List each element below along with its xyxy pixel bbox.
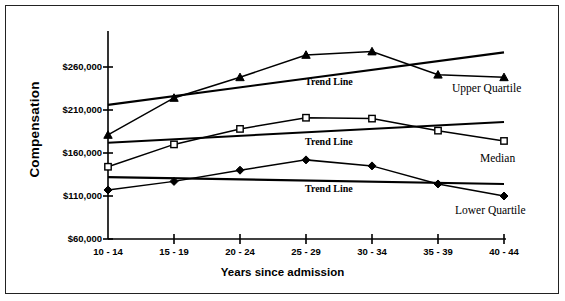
- series-label-median: Median: [480, 152, 515, 164]
- x-axis-tick-label: 20 - 24: [205, 246, 275, 257]
- x-axis-tick-label: 40 - 44: [469, 246, 539, 257]
- data-point-median: [501, 138, 507, 144]
- data-point-median: [369, 115, 375, 121]
- x-axis-tick-label: 35 - 39: [403, 246, 473, 257]
- x-axis-tick-label: 25 - 29: [271, 246, 341, 257]
- y-axis-tick-label: $160,000: [40, 147, 102, 158]
- data-point-median: [105, 164, 111, 170]
- y-axis-tick-label: $260,000: [40, 61, 102, 72]
- data-point-lower-quartile: [104, 186, 112, 194]
- series-label-lower-quartile: Lower Quartile: [455, 204, 526, 216]
- chart-figure: Compensation Years since admission $60,0…: [0, 0, 565, 301]
- series-line-upper-quartile: [108, 52, 504, 135]
- y-axis-tick-label: $110,000: [40, 190, 102, 201]
- series-label-upper-quartile: Upper Quartile: [452, 82, 521, 94]
- x-axis-tick-label: 15 - 19: [139, 246, 209, 257]
- x-axis-tick-label: 30 - 34: [337, 246, 407, 257]
- data-point-median: [237, 126, 243, 132]
- x-axis-tick-label: 10 - 14: [73, 246, 143, 257]
- data-point-lower-quartile: [302, 156, 310, 164]
- data-point-median: [435, 127, 441, 133]
- data-point-lower-quartile: [434, 180, 442, 188]
- annotation-trend-line-lower: Trend Line: [305, 183, 353, 194]
- data-point-lower-quartile: [368, 162, 376, 170]
- data-point-lower-quartile: [236, 166, 244, 174]
- y-axis-tick-label: $210,000: [40, 104, 102, 115]
- data-point-median: [303, 115, 309, 121]
- annotation-trend-line-upper: Trend Line: [305, 76, 353, 87]
- data-point-lower-quartile: [500, 192, 508, 200]
- data-point-median: [171, 141, 177, 147]
- data-point-upper-quartile: [104, 131, 112, 139]
- annotation-trend-line-median: Trend Line: [305, 136, 353, 147]
- y-axis-tick-label: $60,000: [40, 233, 102, 244]
